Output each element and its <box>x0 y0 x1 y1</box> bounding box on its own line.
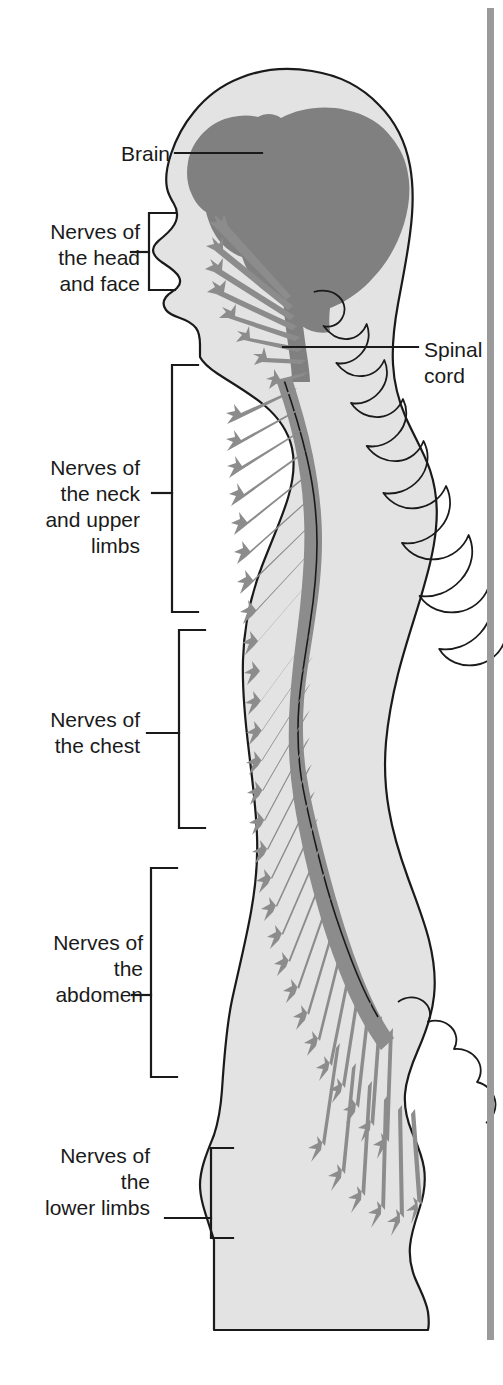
label-brain: Brain <box>60 141 170 167</box>
bracket-chest <box>179 630 205 828</box>
margin-rule-icon <box>487 8 494 1340</box>
label-spinal-cord: Spinal cord <box>424 337 500 389</box>
label-nerves-chest: Nerves of the chest <box>20 707 140 759</box>
label-nerves-abdomen: Nerves of the abdomen <box>20 930 143 1008</box>
bracket-neck-upper-limbs <box>172 365 198 612</box>
bracket-abdomen <box>151 868 177 1077</box>
label-nerves-head-face: Nerves of the head and face <box>24 219 140 297</box>
figure-page: Brain Nerves of the head and face Nerves… <box>0 0 503 1385</box>
label-nerves-lower-limbs: Nerves of the lower limbs <box>14 1143 150 1221</box>
label-nerves-neck-upper-limbs: Nerves of the neck and upper limbs <box>20 455 140 559</box>
